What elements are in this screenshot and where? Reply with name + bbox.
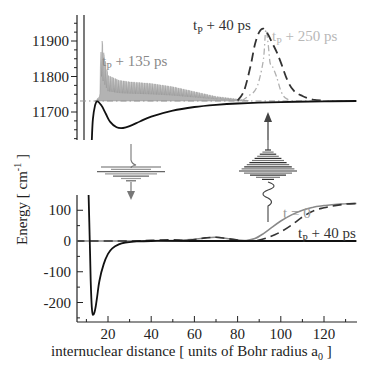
annotation-rest: + 135 ps	[112, 53, 168, 69]
annotation-label: tP + 40 ps	[193, 17, 251, 36]
series-excited-potential	[92, 101, 357, 140]
x-tick-label: 120	[313, 326, 336, 342]
y-axis-title: Energy [ cm-1 ]	[12, 154, 30, 245]
series-tp-135ps	[95, 41, 248, 101]
x-tick-label: 80	[230, 326, 245, 342]
x-axis-title-main: internuclear distance [ units of Bohr ra…	[51, 343, 318, 359]
lower-y-tick-label: -200	[44, 295, 72, 311]
x-tick-label: 100	[270, 326, 293, 342]
y-axis-title-main: Energy [ cm	[14, 171, 30, 245]
lower-y-tick-label: 0	[64, 233, 72, 249]
wavepacket-insets	[97, 112, 297, 222]
x-axis-title: internuclear distance [ units of Bohr ra…	[51, 343, 332, 362]
lower-plot-area	[76, 195, 357, 315]
x-tick-label: 60	[187, 326, 202, 342]
annotation-rest: + 40 ps	[308, 225, 356, 241]
x-tick-label: 20	[101, 326, 116, 342]
y-axis-title-end: ]	[14, 154, 30, 163]
up-arrow-icon	[264, 112, 272, 122]
x-axis-title-end: ]	[323, 343, 332, 359]
small-wavepacket-stem	[131, 144, 136, 168]
annotation-t: t = 0	[283, 205, 311, 221]
large-wavepacket-tail	[263, 182, 274, 222]
y-axis-title-sup: -1	[12, 163, 23, 171]
annotation-rest: + 40 ps	[203, 17, 251, 33]
lower-y-tick-label: 100	[49, 202, 72, 218]
series-ground-potential	[89, 195, 357, 315]
annotation-label-lower: t = 0	[283, 205, 311, 221]
upper-y-tick-label: 11800	[32, 69, 69, 85]
lower-panel: -200-100010020406080100120t = 0tP + 40 p…	[44, 195, 358, 342]
down-arrow-icon	[127, 191, 135, 200]
annotation-label: tP + 250 ps	[272, 28, 337, 47]
annotation-rest: + 250 ps	[282, 28, 338, 44]
x-tick-label: 40	[144, 326, 159, 342]
upper-y-tick-label: 11700	[32, 104, 69, 120]
annotation-label: tP + 135 ps	[102, 53, 167, 72]
figure: 117001180011900tP + 135 pstP + 40 pstP +…	[0, 0, 371, 368]
lower-y-tick-label: -100	[44, 264, 72, 280]
upper-y-tick-label: 11900	[32, 33, 69, 49]
upper-panel: 117001180011900tP + 135 pstP + 40 pstP +…	[32, 15, 357, 140]
